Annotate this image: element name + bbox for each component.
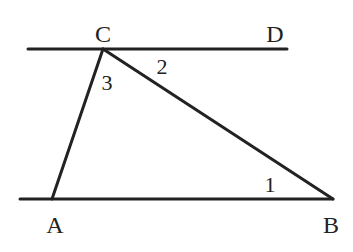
point-label-b: B: [323, 212, 339, 238]
angle-label-1: 1: [265, 172, 276, 197]
geometry-diagram: C D A B 1 2 3: [0, 0, 353, 252]
angle-label-2: 2: [157, 54, 168, 79]
segment-ca: [52, 49, 103, 199]
point-label-c: C: [95, 21, 111, 47]
segment-cb: [103, 49, 333, 199]
diagram-canvas: C D A B 1 2 3: [0, 0, 353, 252]
point-label-a: A: [46, 212, 64, 238]
angle-label-3: 3: [102, 70, 113, 95]
point-label-d: D: [266, 21, 283, 47]
